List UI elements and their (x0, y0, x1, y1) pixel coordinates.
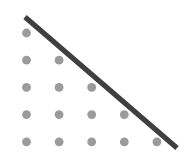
data-point-dot (55, 83, 64, 92)
data-point-dot (22, 83, 31, 92)
data-point-dot (22, 137, 31, 146)
triangular-dot-array-diagram (0, 0, 194, 168)
data-point-dot (55, 137, 64, 146)
data-point-dot (55, 110, 64, 119)
data-point-dot (22, 110, 31, 119)
data-point-dot (153, 137, 162, 146)
data-point-dot (87, 83, 96, 92)
data-point-dot (120, 137, 129, 146)
figure-canvas (0, 0, 194, 168)
data-point-dot (87, 110, 96, 119)
data-point-dot (87, 137, 96, 146)
data-point-dot (22, 56, 31, 65)
data-point-dot (55, 56, 64, 65)
data-point-dot (22, 29, 31, 38)
data-point-dot (120, 110, 129, 119)
